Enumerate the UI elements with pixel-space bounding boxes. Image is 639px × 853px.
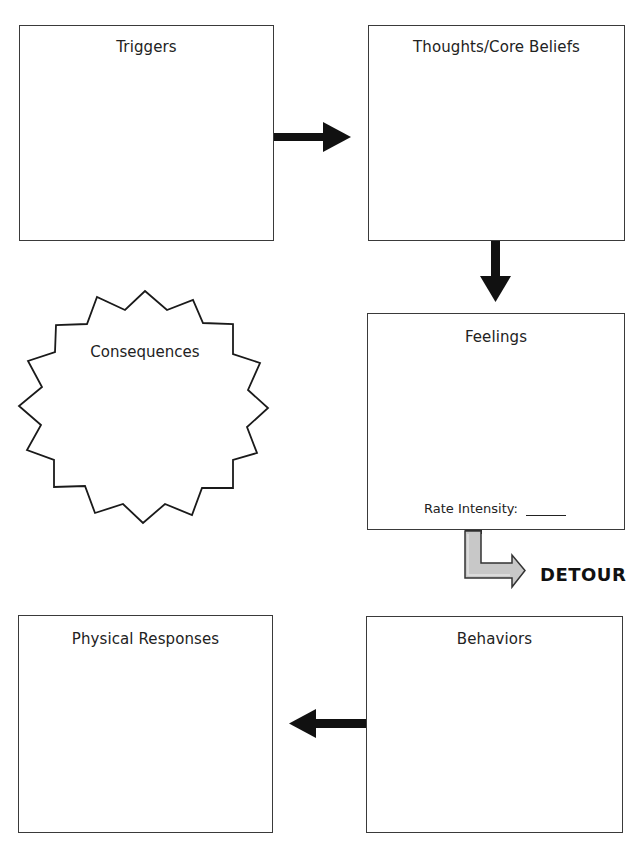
detour-label: DETOUR <box>540 564 626 585</box>
arrow-down-icon <box>480 241 511 302</box>
arrow-right-icon <box>274 122 351 152</box>
detour-arrow-icon <box>465 530 525 587</box>
consequences-starburst[interactable] <box>19 291 268 523</box>
consequences-title: Consequences <box>60 343 230 361</box>
arrow-left-icon <box>289 709 366 738</box>
diagram-shapes <box>0 0 639 853</box>
